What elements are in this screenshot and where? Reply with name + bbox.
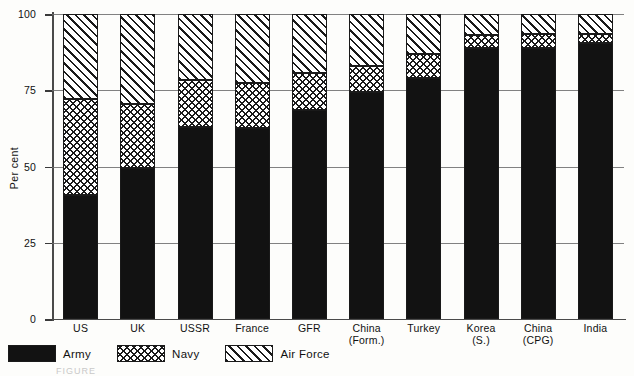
bar-segment-army	[235, 128, 270, 319]
x-tick-label-line1: India	[563, 323, 627, 335]
x-tick-label-line1: China	[506, 323, 570, 335]
bar-us	[63, 14, 98, 319]
figure-caption: FIGURE	[56, 366, 96, 376]
cross-hatch-swatch	[117, 345, 165, 362]
legend-label: Navy	[172, 348, 199, 360]
bar-segment-army	[349, 92, 384, 319]
bar-india	[578, 14, 613, 319]
x-tick-label-line2: (S.)	[449, 335, 513, 347]
x-tick-label: UK	[106, 323, 170, 335]
x-tick-label-line1: US	[49, 323, 113, 335]
bar-segment-air-force	[521, 14, 556, 34]
x-tick-label: France	[220, 323, 284, 335]
y-tick-label: 25	[10, 237, 36, 249]
bar-korea	[464, 14, 499, 319]
bar-segment-army	[178, 127, 213, 319]
bar-ussr	[178, 14, 213, 319]
bar-segment-navy	[406, 54, 441, 78]
bar-segment-air-force	[464, 14, 499, 35]
chart-legend: ArmyNavyAir Force	[8, 345, 356, 362]
bar-segment-air-force	[120, 14, 155, 104]
bar-segment-army	[521, 48, 556, 319]
x-tick-label-line1: Turkey	[392, 323, 456, 335]
y-tick-mark	[45, 14, 52, 16]
legend-item-army: Army	[8, 345, 117, 362]
bar-segment-air-force	[578, 14, 613, 34]
bar-segment-air-force	[178, 14, 213, 80]
x-tick-label-line1: Korea	[449, 323, 513, 335]
x-tick-label: USSR	[163, 323, 227, 335]
bar-segment-army	[406, 78, 441, 319]
bar-segment-army	[578, 43, 613, 319]
bar-segment-navy	[578, 34, 613, 43]
y-tick-label: 50	[10, 161, 36, 173]
bar-france	[235, 14, 270, 319]
bar-uk	[120, 14, 155, 319]
y-tick-label: 100	[10, 8, 36, 20]
x-tick-label: GFR	[277, 323, 341, 335]
x-tick-label-line1: GFR	[277, 323, 341, 335]
x-tick-label: India	[563, 323, 627, 335]
y-tick-mark	[45, 243, 52, 245]
bar-segment-navy	[120, 104, 155, 168]
x-tick-label-line1: UK	[106, 323, 170, 335]
x-tick-label-line1: China	[335, 323, 399, 335]
bar-segment-army	[292, 110, 327, 319]
x-tick-label: China(Form.)	[335, 323, 399, 346]
legend-item-air-force: Air Force	[225, 345, 355, 362]
bar-china	[349, 14, 384, 319]
bar-segment-navy	[235, 83, 270, 129]
bar-segment-navy	[63, 99, 98, 195]
stacked-bar-chart: Per cent 0255075100 USUKUSSRFranceGFRChi…	[0, 0, 634, 376]
bar-segment-army	[63, 195, 98, 319]
bar-segment-army	[464, 48, 499, 319]
y-tick-label: 75	[10, 84, 36, 96]
y-tick-mark	[45, 167, 52, 169]
solid-black-swatch	[8, 345, 56, 362]
x-tick-label-line1: USSR	[163, 323, 227, 335]
bar-turkey	[406, 14, 441, 319]
bar-gfr	[292, 14, 327, 319]
x-tick-label: US	[49, 323, 113, 335]
x-tick-label-line1: France	[220, 323, 284, 335]
legend-label: Army	[63, 348, 91, 360]
bar-segment-air-force	[235, 14, 270, 83]
bar-segment-army	[120, 168, 155, 319]
legend-item-navy: Navy	[117, 345, 225, 362]
bar-segment-air-force	[406, 14, 441, 54]
x-tick-label: Turkey	[392, 323, 456, 335]
bar-segment-navy	[464, 35, 499, 47]
x-tick-label: Korea(S.)	[449, 323, 513, 346]
y-tick-mark	[45, 319, 52, 321]
bar-segment-air-force	[63, 14, 98, 99]
bar-segment-navy	[349, 66, 384, 92]
y-tick-label: 0	[10, 313, 36, 325]
bar-segment-navy	[178, 80, 213, 127]
bar-china	[521, 14, 556, 319]
bar-segment-navy	[292, 73, 327, 110]
x-tick-label: China(CPG)	[506, 323, 570, 346]
bar-segment-air-force	[349, 14, 384, 66]
x-tick-label-line2: (CPG)	[506, 335, 570, 347]
y-tick-mark	[45, 90, 52, 92]
bar-segment-navy	[521, 34, 556, 48]
diagonal-hatch-swatch	[225, 345, 273, 362]
bar-segment-air-force	[292, 14, 327, 73]
legend-label: Air Force	[280, 348, 329, 360]
plot-area	[52, 14, 624, 319]
